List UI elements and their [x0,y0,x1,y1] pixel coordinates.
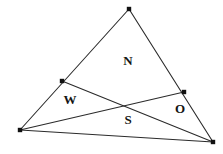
cevian-left-side-to-bottom-right [62,81,213,142]
point-on-right-side-dot [182,90,186,94]
triangle-side-left [20,9,129,130]
apex-vertex-dot [127,7,131,11]
triangle-side-bottom [20,130,213,142]
region-label-s: S [124,113,131,126]
bottom-left-vertex-dot [18,128,22,132]
triangle-side-right [129,9,213,142]
bottom-right-vertex-dot [211,140,215,144]
point-on-left-side-dot [60,79,64,83]
region-label-w: W [64,93,77,106]
region-label-o: O [175,102,185,115]
geometry-figure: NWOS [0,0,223,154]
region-label-n: N [123,54,132,67]
segments-group [20,9,213,142]
geometry-canvas [0,0,223,154]
